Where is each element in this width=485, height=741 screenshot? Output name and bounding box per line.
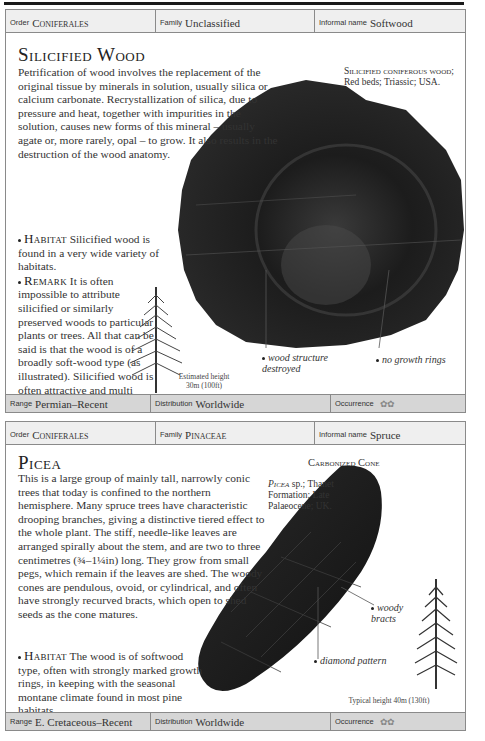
annotation-wood-structure: wood structure destroyed: [262, 352, 362, 374]
habitat-label: Habitat: [24, 231, 67, 246]
range-value: E. Cretaceous–Recent: [35, 716, 132, 728]
order-value: Coniferales: [32, 17, 88, 29]
occurrence-label: Occurrence: [335, 717, 374, 726]
annotation-growth-rings: no growth rings: [376, 354, 466, 365]
pointer-dot-icon: [262, 357, 265, 360]
order-label: Order: [10, 430, 29, 439]
distribution-cell: Distribution Worldwide: [151, 713, 331, 730]
range-cell: Range E. Cretaceous–Recent: [6, 713, 151, 730]
occurrence-cell: Occurrence ✿✿: [331, 395, 465, 412]
annotation-lines: [316, 587, 376, 662]
entry-description: Petrification of wood involves the repla…: [18, 66, 278, 161]
distribution-label: Distribution: [155, 399, 193, 408]
annotation-lines: [264, 270, 394, 350]
range-cell: Range Permian–Recent: [6, 395, 151, 412]
order-label: Order: [10, 18, 29, 27]
entry-footer: Range E. Cretaceous–Recent Distribution …: [6, 712, 465, 730]
occurrence-cell: Occurrence ✿✿: [331, 713, 465, 730]
range-label: Range: [10, 717, 32, 726]
order-cell: Order Coniferales: [6, 422, 156, 444]
entry-notes: Habitat The wood is of softwood type, of…: [18, 649, 206, 718]
specimen-caption: Silicified coniferous wood; Red beds; Tr…: [344, 66, 459, 88]
family-value: Unclassified: [185, 17, 240, 29]
informal-name-value: Softwood: [370, 17, 413, 29]
informal-name-value: Spruce: [370, 429, 401, 441]
family-label: Family: [160, 430, 182, 439]
occurrence-label: Occurrence: [335, 399, 374, 408]
bullet-icon: [18, 656, 21, 659]
family-label: Family: [160, 18, 182, 27]
family-cell: Family Unclassified: [156, 10, 315, 32]
occurrence-icons: ✿✿: [380, 717, 394, 727]
bullet-icon: [18, 281, 21, 284]
bullet-icon: [18, 239, 21, 242]
intro-text: This is a large group of mainly tall, na…: [18, 472, 266, 622]
entry-picea: Order Coniferales Family Pinaceae Inform…: [5, 421, 466, 731]
pointer-dot-icon: [376, 359, 379, 362]
tree-height-note: Estimated height 30m (100ft): [164, 372, 244, 390]
distribution-label: Distribution: [155, 717, 193, 726]
entry-header: Order Coniferales Family Unclassified In…: [6, 10, 465, 33]
remark-label: Remark: [24, 273, 67, 288]
entry-header: Order Coniferales Family Pinaceae Inform…: [6, 422, 465, 445]
order-value: Coniferales: [32, 429, 88, 441]
entry-title: Silicified Wood: [18, 44, 145, 66]
intro-text: Petrification of wood involves the repla…: [18, 66, 278, 161]
habitat-label: Habitat: [24, 648, 67, 663]
entry-description: This is a large group of mainly tall, na…: [18, 472, 266, 622]
habitat-paragraph: Habitat The wood is of softwood type, of…: [18, 649, 206, 718]
tree-height-note: Typical height 40m (130ft): [324, 696, 454, 705]
informal-name-cell: Informal name Spruce: [315, 422, 465, 444]
distribution-value: Worldwide: [196, 398, 245, 410]
annotation-diamond-pattern: diamond pattern: [314, 655, 414, 666]
entry-title: Picea: [18, 452, 61, 474]
distribution-cell: Distribution Worldwide: [151, 395, 331, 412]
habitat-paragraph: Habitat Silicified wood is found in a ve…: [18, 232, 160, 274]
family-value: Pinaceae: [185, 429, 226, 441]
pointer-dot-icon: [371, 607, 374, 610]
informal-name-label: Informal name: [319, 430, 367, 439]
spruce-tree-icon: [411, 577, 461, 692]
entry-silicified-wood: Order Coniferales Family Unclassified In…: [5, 9, 466, 413]
distribution-value: Worldwide: [196, 716, 245, 728]
family-cell: Family Pinaceae: [156, 422, 315, 444]
range-value: Permian–Recent: [35, 398, 108, 410]
informal-name-label: Informal name: [319, 18, 367, 27]
pointer-dot-icon: [314, 660, 317, 663]
entry-footer: Range Permian–Recent Distribution Worldw…: [6, 394, 465, 412]
order-cell: Order Coniferales: [6, 10, 156, 32]
occurrence-icons: ✿✿: [380, 399, 394, 409]
range-label: Range: [10, 399, 32, 408]
informal-name-cell: Informal name Softwood: [315, 10, 465, 32]
page-top-rule: [4, 2, 464, 5]
specimen-caption: Picea sp.; Thanet Formation; Late Palaeo…: [268, 479, 348, 512]
